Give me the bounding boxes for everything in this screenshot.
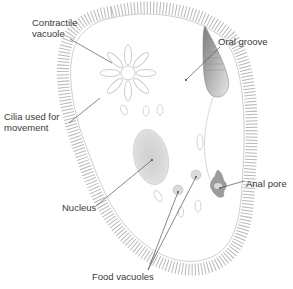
label-anal-pore: Anal pore [246,178,287,189]
label-oral-groove: Oral groove [218,36,268,47]
food-vacuole [191,170,201,180]
food-vacuole [173,185,183,195]
label-contractile-vacuole: Contractile vacuole [32,17,77,39]
label-food-vacuoles: Food vacuoles [92,271,154,282]
label-cilia: Cilia used for movement [4,111,59,133]
label-nucleus: Nucleus [62,202,96,213]
